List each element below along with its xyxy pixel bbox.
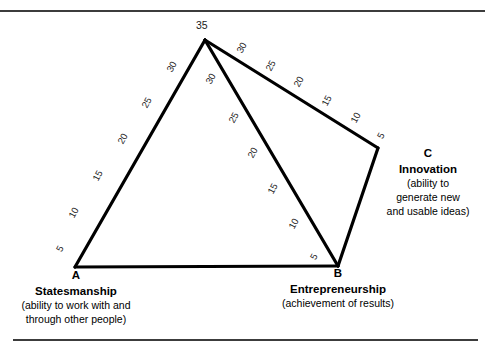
figure-container: 35 510152025303025201510530252015105 A S… bbox=[0, 0, 485, 354]
line-apex-to-c bbox=[205, 40, 378, 148]
triangle-outlines bbox=[75, 40, 378, 267]
vertex-b-title: Entrepreneurship bbox=[262, 282, 414, 296]
vertex-c-letter: C bbox=[372, 146, 484, 160]
vertex-c-title: Innovation bbox=[372, 162, 484, 176]
vertex-c-subtitle-line-1: (ability to bbox=[372, 177, 484, 190]
vertex-label-c: C Innovation (ability to generate new an… bbox=[372, 146, 484, 217]
line-apex-to-b bbox=[205, 40, 338, 266]
vertex-b-letter: B bbox=[262, 266, 414, 280]
line-a-to-apex bbox=[75, 40, 205, 267]
vertex-b-subtitle-line-1: (achievement of results) bbox=[262, 297, 414, 310]
vertex-label-a: A Statesmanship (ability to work with an… bbox=[0, 268, 152, 326]
apex-value-label: 35 bbox=[196, 19, 208, 31]
vertex-a-letter: A bbox=[0, 268, 152, 282]
vertex-a-subtitle-line-1: (ability to work with and bbox=[0, 299, 152, 312]
vertex-a-subtitle-line-2: through other people) bbox=[0, 313, 152, 326]
vertex-c-subtitle-line-2: generate new bbox=[372, 191, 484, 204]
vertex-c-subtitle-line-3: and usable ideas) bbox=[372, 205, 484, 218]
vertex-a-title: Statesmanship bbox=[0, 284, 152, 298]
vertex-label-b: B Entrepreneurship (achievement of resul… bbox=[262, 266, 414, 310]
